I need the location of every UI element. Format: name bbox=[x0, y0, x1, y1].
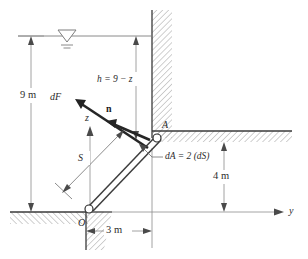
pin-hinge-circle-icon bbox=[85, 205, 93, 213]
label-hinge-A: A bbox=[161, 119, 169, 130]
label-normal-vector: n bbox=[106, 103, 112, 114]
label-area-element: dA = 2 (dS) bbox=[165, 151, 210, 162]
hydrostatic-gate-figure: 9 m h = 9 − z 4 m 3 m bbox=[0, 0, 308, 259]
dimension-total-depth: 9 m bbox=[18, 36, 45, 212]
water-surface bbox=[18, 30, 152, 48]
arrowhead-icon bbox=[28, 203, 34, 212]
pin-hinge-circle-icon bbox=[153, 134, 161, 142]
label-ledge-height: 4 m bbox=[213, 170, 229, 181]
label-hinge-O: O bbox=[78, 217, 85, 228]
arc-length-leader-line bbox=[66, 134, 120, 189]
arrowhead-icon bbox=[143, 228, 152, 234]
label-force-df: dF bbox=[50, 91, 62, 102]
area-element-annotation: dA = 2 (dS) bbox=[139, 144, 210, 162]
label-arc-length: S bbox=[78, 152, 83, 163]
right-ledge-hatch bbox=[152, 131, 292, 142]
arrowhead-icon bbox=[274, 209, 284, 216]
label-head: h = 9 − z bbox=[97, 74, 133, 84]
arrowhead-icon bbox=[75, 99, 86, 109]
free-surface-triangle-icon bbox=[58, 30, 76, 48]
label-axis-y: y bbox=[288, 205, 294, 216]
force-df-arrow: dF bbox=[50, 91, 148, 148]
diagram-canvas: 9 m h = 9 − z 4 m 3 m bbox=[0, 0, 308, 259]
arrowhead-icon bbox=[87, 126, 94, 136]
gate-plate bbox=[88, 136, 161, 211]
arrowhead-icon bbox=[221, 142, 227, 151]
axis-y: y bbox=[104, 205, 294, 216]
label-total-depth: 9 m bbox=[20, 89, 36, 100]
label-axis-z: z bbox=[84, 112, 89, 123]
ground-bed bbox=[10, 212, 88, 224]
arrowhead-icon bbox=[133, 36, 139, 45]
arrowhead-icon bbox=[116, 130, 124, 139]
arrowhead-icon bbox=[221, 203, 227, 212]
dimension-head: h = 9 − z bbox=[96, 36, 144, 140]
label-horizontal-span: 3 m bbox=[106, 224, 122, 235]
ground-hatch bbox=[10, 212, 88, 224]
dimension-ledge-height: 4 m bbox=[212, 142, 238, 212]
arrowhead-icon bbox=[28, 36, 34, 45]
right-ledge bbox=[152, 131, 292, 142]
